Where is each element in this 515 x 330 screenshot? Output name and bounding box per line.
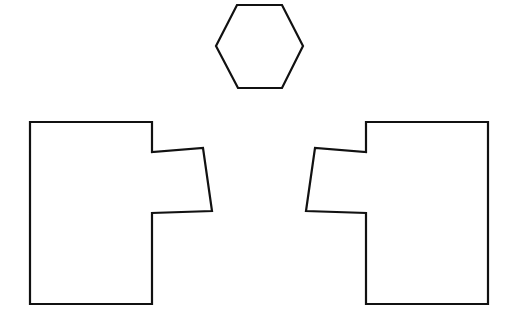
- left-puzzle-piece-shape: [30, 122, 212, 304]
- shapes-svg: [0, 0, 515, 330]
- figure-canvas: [0, 0, 515, 330]
- hexagon-shape: [216, 5, 303, 88]
- right-puzzle-piece-shape: [306, 122, 488, 304]
